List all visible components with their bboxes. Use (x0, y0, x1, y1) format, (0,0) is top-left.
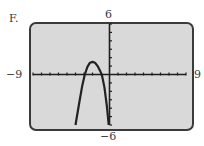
function-curve (76, 62, 109, 125)
graph-plot (0, 0, 204, 146)
axes (33, 24, 186, 125)
